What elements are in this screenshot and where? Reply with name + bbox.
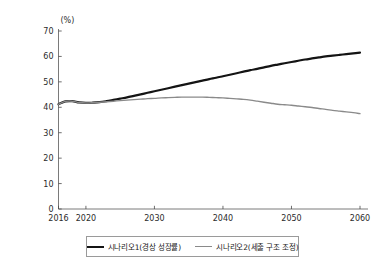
legend-entry-scenario-2: 시나리오2(세출 구조 조정) (195, 241, 298, 252)
legend-swatch-scenario-2 (195, 246, 212, 247)
series-line-1 (59, 53, 361, 105)
legend-entry-scenario-1: 시나리오1(경상 성장률) (87, 241, 181, 252)
legend-swatch-scenario-1 (87, 246, 104, 248)
series-line-2 (59, 97, 361, 114)
y-axis-ticks (59, 31, 62, 209)
legend-label-scenario-2: 시나리오2(세출 구조 조정) (216, 241, 298, 252)
data-series-lines (59, 53, 361, 114)
chart-figure: (%) 010203040506070 20162020203020402050… (0, 0, 384, 277)
x-axis-ticks (59, 206, 361, 209)
chart-legend: 시나리오1(경상 성장률) 시나리오2(세출 구조 조정) (86, 236, 299, 257)
legend-label-scenario-1: 시나리오1(경상 성장률) (108, 241, 181, 252)
